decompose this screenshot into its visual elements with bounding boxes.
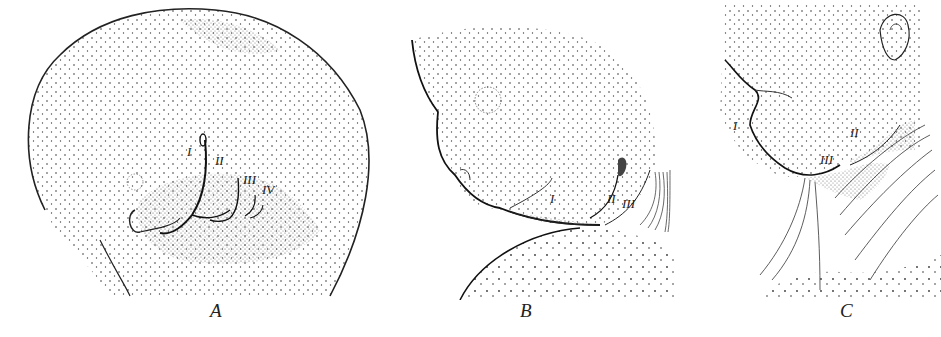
label-arch-2-b: II bbox=[606, 191, 616, 206]
label-arch-3-a: III bbox=[242, 172, 257, 187]
face-neck-drawing-c: I II III bbox=[710, 0, 941, 300]
panel-b: I II III B bbox=[400, 0, 700, 337]
panel-caption-b: B bbox=[520, 300, 532, 322]
figure: I II III IV A bbox=[0, 0, 941, 337]
panel-a: I II III IV A bbox=[0, 0, 380, 337]
label-arch-2-a: II bbox=[214, 153, 224, 168]
panel-c: I II III C bbox=[710, 0, 941, 337]
label-arch-4-a: IV bbox=[261, 182, 276, 197]
label-arch-1-b: I bbox=[549, 191, 555, 206]
panel-caption-c: C bbox=[840, 300, 853, 322]
label-arch-3-c: III bbox=[819, 152, 834, 167]
label-arch-1-a: I bbox=[186, 144, 192, 159]
label-arch-2-c: II bbox=[849, 125, 859, 140]
embryo-head-drawing-a: I II III IV bbox=[0, 0, 380, 300]
label-arch-1-c: I bbox=[732, 118, 738, 133]
fetal-head-drawing-b: I II III bbox=[400, 0, 700, 300]
label-arch-3-b: III bbox=[621, 196, 636, 211]
panel-caption-a: A bbox=[210, 300, 222, 322]
